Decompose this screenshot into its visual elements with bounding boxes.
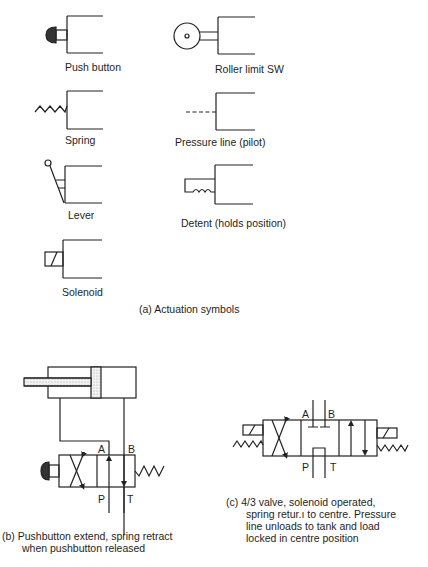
port-c-P: P <box>302 461 309 473</box>
port-b-A: A <box>98 443 105 455</box>
solenoid-symbol <box>45 240 102 278</box>
label-push-button: Push button <box>65 61 121 73</box>
label-solenoid: Solenoid <box>62 286 103 298</box>
port-b-P: P <box>98 493 105 505</box>
push-button-symbol <box>46 16 103 53</box>
label-lever: Lever <box>68 209 94 221</box>
caption-c-line4: locked in centre position <box>246 532 359 545</box>
label-spring: Spring <box>65 134 95 146</box>
pressure-line-symbol <box>186 93 255 130</box>
label-roller-limit: Roller limit SW <box>215 63 284 75</box>
label-pressure-line: Pressure line (pilot) <box>175 136 265 148</box>
spring-symbol <box>35 91 103 129</box>
roller-limit-symbol <box>174 17 255 54</box>
detent-symbol <box>185 165 253 204</box>
cylinder <box>24 367 136 398</box>
port-b-B: B <box>128 443 135 455</box>
port-c-B: B <box>328 408 335 420</box>
port-c-A: A <box>302 408 309 420</box>
label-detent: Detent (holds position) <box>181 217 286 229</box>
hydraulic-symbols-diagram <box>0 0 428 567</box>
valve-c <box>233 400 408 478</box>
port-b-T: T <box>127 493 133 505</box>
caption-a: (a) Actuation symbols <box>139 303 239 316</box>
caption-b-line2: when pushbutton released <box>22 542 145 555</box>
port-c-T: T <box>330 461 336 473</box>
lever-symbol <box>45 160 102 203</box>
